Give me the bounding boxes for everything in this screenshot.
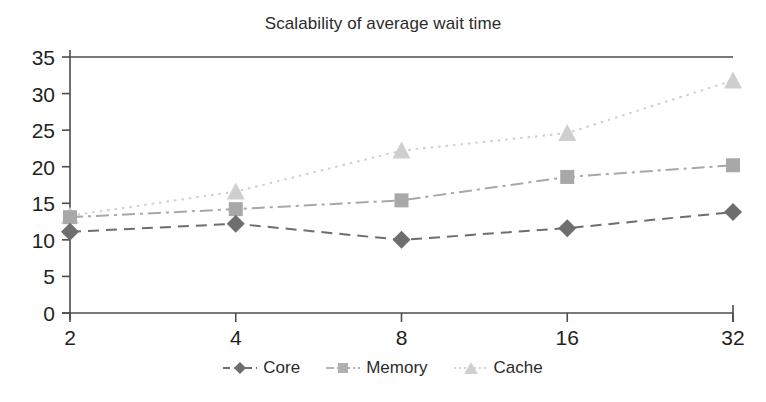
- x-tick-label: 16: [556, 326, 579, 349]
- legend-item-memory[interactable]: Memory: [326, 358, 427, 378]
- chart-container: Scalability of average wait time 0510152…: [0, 0, 766, 402]
- core-diamond-icon: [223, 360, 257, 376]
- data-point-diamond: [558, 219, 576, 237]
- y-tick-label: 20: [32, 156, 55, 179]
- x-tick-label: 4: [230, 326, 242, 349]
- series-group: [61, 71, 742, 248]
- y-tick-label: 0: [43, 302, 55, 325]
- y-tick-label: 5: [43, 265, 55, 288]
- legend-label-memory: Memory: [366, 358, 427, 378]
- axis-group: [62, 50, 733, 322]
- y-tick-label: 25: [32, 119, 55, 142]
- data-point-triangle: [393, 142, 411, 159]
- y-tick-label: 15: [32, 192, 55, 215]
- data-point-diamond: [227, 215, 245, 233]
- x-tick-label: 32: [721, 326, 744, 349]
- data-point-diamond: [393, 231, 411, 249]
- data-point-square: [560, 170, 574, 184]
- chart-plot-area: 05101520253035 2481632: [0, 0, 766, 402]
- legend-label-cache: Cache: [494, 358, 543, 378]
- legend-item-cache[interactable]: Cache: [454, 358, 543, 378]
- x-tick-group: 2481632: [64, 313, 745, 349]
- y-tick-label: 10: [32, 229, 55, 252]
- series-line: [70, 165, 733, 217]
- series-core: [61, 203, 742, 249]
- data-point-triangle: [558, 124, 576, 141]
- chart-legend: Core Memory Cache: [0, 358, 766, 378]
- cache-triangle-icon: [454, 360, 488, 376]
- legend-label-core: Core: [263, 358, 300, 378]
- data-point-square: [63, 210, 77, 224]
- data-point-diamond: [724, 203, 742, 221]
- data-point-square: [395, 193, 409, 207]
- x-tick-label: 8: [396, 326, 408, 349]
- memory-square-icon: [326, 360, 360, 376]
- legend-item-core[interactable]: Core: [223, 358, 300, 378]
- data-point-triangle: [227, 183, 245, 200]
- y-tick-group: 05101520253035: [32, 46, 70, 325]
- x-tick-label: 2: [64, 326, 76, 349]
- data-point-square: [229, 202, 243, 216]
- data-point-triangle: [724, 71, 742, 88]
- series-memory: [63, 158, 740, 224]
- y-tick-label: 30: [32, 83, 55, 106]
- y-tick-label: 35: [32, 46, 55, 69]
- data-point-square: [726, 158, 740, 172]
- data-point-diamond: [61, 223, 79, 241]
